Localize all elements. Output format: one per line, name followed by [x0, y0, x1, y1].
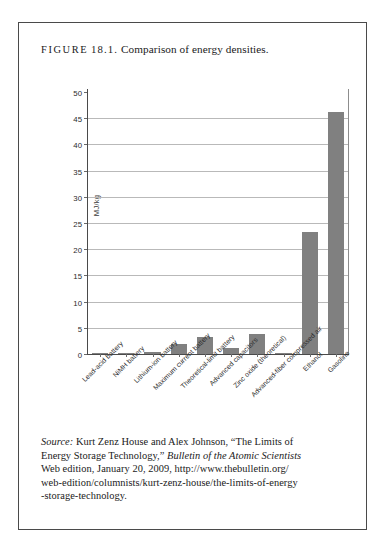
bar-slot [297, 93, 323, 354]
plot-area: MJ/kg 05101520253035404550 [87, 93, 349, 355]
figure-label: FIGURE [41, 44, 88, 55]
source-line-2: Energy Storage Technology,” Bulletin of … [41, 449, 351, 463]
bar-slot [323, 93, 349, 354]
figure-number: 18.1. [91, 43, 118, 55]
source-line-5: -storage-technology. [41, 489, 351, 503]
figure-title: Comparison of energy densities. [121, 43, 269, 55]
x-tickmark [284, 354, 285, 357]
y-tick-label: 10 [73, 298, 82, 307]
bar-slot [139, 93, 165, 354]
bar-slot [166, 93, 192, 354]
bars-layer [87, 93, 349, 354]
x-tickmark [153, 354, 154, 357]
y-tick-label: 0 [78, 351, 82, 360]
bar-slot [270, 93, 296, 354]
source-line-2-text: Energy Storage Technology,” [41, 450, 167, 461]
y-tick-label: 30 [73, 193, 82, 202]
y-tick-label: 40 [73, 141, 82, 150]
bar-slot [192, 93, 218, 354]
y-tick-label: 45 [73, 115, 82, 124]
y-tick-label: 5 [78, 324, 82, 333]
bar [328, 112, 344, 354]
bar-slot [244, 93, 270, 354]
source-note: Source: Kurt Zenz House and Alex Johnson… [41, 435, 351, 503]
source-line-3: Web edition, January 20, 2009, http://ww… [41, 462, 351, 476]
source-line-4: web-edition/columnists/kurt-zenz-house/t… [41, 476, 351, 490]
bar-slot [113, 93, 139, 354]
y-tick-label: 25 [73, 220, 82, 229]
figure-caption: FIGURE 18.1. Comparison of energy densit… [41, 43, 346, 55]
y-tick-label: 15 [73, 272, 82, 281]
bar-slot [87, 93, 113, 354]
bar-chart: MJ/kg 05101520253035404550 Lead-acid bat… [49, 81, 361, 371]
y-tick-label: 50 [73, 89, 82, 98]
source-line-1: Source: Kurt Zenz House and Alex Johnson… [41, 435, 351, 449]
source-label: Source: [41, 436, 73, 447]
source-line-1-text: Kurt Zenz House and Alex Johnson, “The L… [73, 436, 293, 447]
bar-slot [218, 93, 244, 354]
figure-page-frame: FIGURE 18.1. Comparison of energy densit… [18, 22, 367, 530]
source-publication: Bulletin of the Atomic Scientists [167, 450, 301, 461]
y-tick-label: 20 [73, 246, 82, 255]
y-tick-label: 35 [73, 167, 82, 176]
